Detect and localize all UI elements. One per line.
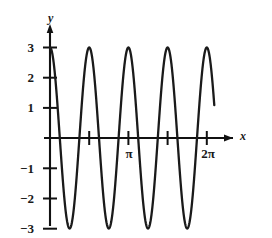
y-tick-label-2: 2: [14, 71, 34, 84]
y-tick-label-minus-3: −3: [8, 222, 34, 235]
y-axis-label: y: [48, 12, 53, 24]
x-tick-label-two-pi: 2π: [194, 147, 222, 160]
y-tick-label-3: 3: [14, 41, 34, 54]
y-tick-label-minus-1: −1: [8, 162, 34, 175]
x-axis-arrowhead: [224, 135, 233, 142]
y-tick-label-1: 1: [14, 101, 34, 114]
plot-canvas: [0, 0, 272, 238]
trig-graph-figure: 3 2 1 −1 −2 −3 π 2π y x: [0, 0, 272, 238]
x-tick-label-pi: π: [118, 147, 140, 160]
y-tick-label-minus-2: −2: [8, 192, 34, 205]
x-axis-label: x: [240, 130, 246, 142]
y-axis-arrowhead: [47, 24, 54, 33]
